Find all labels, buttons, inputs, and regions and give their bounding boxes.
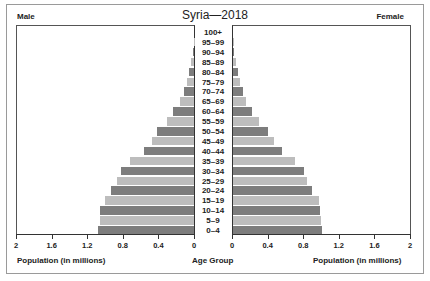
female-label: Female: [376, 12, 404, 21]
female-x-axis-label: Population (in millions): [313, 256, 401, 265]
female-panel: [232, 25, 411, 235]
age-group-label: 15–19: [194, 196, 232, 205]
male-bar: [173, 107, 194, 116]
tick-mark: [194, 234, 195, 239]
tick-label: 0.4: [262, 241, 272, 250]
female-bar: [233, 167, 304, 176]
age-group-label: 80–84: [194, 68, 232, 77]
age-group-label: 75–79: [194, 78, 232, 87]
male-bar: [111, 186, 194, 195]
male-bar: [121, 167, 194, 176]
age-group-label: 30–34: [194, 167, 232, 176]
tick-label: 2: [408, 241, 412, 250]
tick-label: 0.8: [118, 241, 128, 250]
female-bar: [233, 58, 236, 67]
tick-mark: [16, 234, 17, 239]
age-group-label: 100+: [194, 28, 232, 37]
male-bar: [117, 177, 194, 186]
age-group-label: 55–59: [194, 117, 232, 126]
male-bar: [180, 97, 194, 106]
female-x-axis: [232, 234, 410, 235]
female-bar: [233, 216, 321, 225]
male-bar: [157, 127, 194, 136]
age-group-label: 60–64: [194, 107, 232, 116]
age-group-label: 5–9: [194, 216, 232, 225]
tick-mark: [339, 234, 340, 239]
age-group-label: 10–14: [194, 206, 232, 215]
male-bar: [100, 206, 194, 215]
age-group-label: 0–4: [194, 226, 232, 235]
male-x-axis-label: Population (in millions): [17, 256, 105, 265]
female-bar: [233, 48, 234, 57]
tick-mark: [232, 234, 233, 239]
female-bar: [233, 177, 307, 186]
tick-mark: [303, 234, 304, 239]
age-group-label: Age Group: [192, 256, 233, 265]
tick-mark: [158, 234, 159, 239]
chart-title: Syria—2018: [0, 8, 430, 22]
tick-label: 0.4: [153, 241, 163, 250]
tick-label: 1.6: [46, 241, 56, 250]
female-bar: [233, 196, 319, 205]
tick-mark: [410, 234, 411, 239]
tick-label: 1.6: [369, 241, 379, 250]
female-bar: [233, 107, 252, 116]
age-group-label: 25–29: [194, 177, 232, 186]
age-group-label: 90–94: [194, 48, 232, 57]
age-group-label: 85–89: [194, 58, 232, 67]
tick-mark: [268, 234, 269, 239]
tick-mark: [123, 234, 124, 239]
male-bar: [187, 78, 194, 87]
male-x-axis: [16, 234, 194, 235]
female-bar: [233, 87, 243, 96]
tick-label: 1.2: [82, 241, 92, 250]
tick-mark: [374, 234, 375, 239]
female-bar: [233, 206, 320, 215]
female-bar: [233, 157, 295, 166]
female-bar: [233, 127, 268, 136]
female-bar: [233, 68, 238, 77]
female-bar: [233, 117, 259, 126]
age-group-label: 70–74: [194, 87, 232, 96]
male-label: Male: [17, 12, 35, 21]
tick-mark: [87, 234, 88, 239]
tick-label: 0: [192, 241, 196, 250]
male-bar: [130, 157, 194, 166]
female-bar: [233, 97, 246, 106]
male-bar: [105, 196, 194, 205]
tick-label: 0: [230, 241, 234, 250]
male-bar: [152, 137, 194, 146]
age-group-label: 40–44: [194, 147, 232, 156]
tick-mark: [52, 234, 53, 239]
male-bar: [144, 147, 194, 156]
female-bar: [233, 137, 274, 146]
female-bar: [233, 186, 312, 195]
male-bar: [184, 87, 194, 96]
age-group-label: 35–39: [194, 157, 232, 166]
male-bar: [167, 117, 194, 126]
female-bar: [233, 78, 240, 87]
age-group-label: 20–24: [194, 186, 232, 195]
male-bar: [100, 216, 194, 225]
tick-label: 0.8: [298, 241, 308, 250]
female-bar: [233, 147, 282, 156]
tick-label: 2: [14, 241, 18, 250]
age-group-label: 50–54: [194, 127, 232, 136]
male-panel: [16, 25, 195, 235]
tick-label: 1.2: [334, 241, 344, 250]
age-group-label: 95–99: [194, 38, 232, 47]
age-group-label: 65–69: [194, 97, 232, 106]
age-group-label: 45–49: [194, 137, 232, 146]
